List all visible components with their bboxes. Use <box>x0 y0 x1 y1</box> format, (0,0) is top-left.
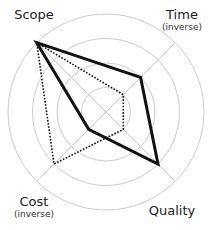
axis-line-quality <box>106 112 175 181</box>
axis-label-quality-text: Quality <box>146 203 198 218</box>
axis-sublabel-time: (inverse) <box>158 22 206 32</box>
axis-sublabel-cost: (inverse) <box>10 209 58 219</box>
axis-label-scope: Scope <box>12 7 56 22</box>
axis-label-quality: Quality <box>146 203 198 218</box>
axis-label-time: Time (inverse) <box>158 7 206 32</box>
series-dotted <box>37 43 124 164</box>
axis-line-cost <box>37 112 106 181</box>
axis-label-time-text: Time <box>158 7 206 22</box>
axis-label-cost-text: Cost <box>10 194 58 209</box>
axis-label-cost: Cost (inverse) <box>10 194 58 219</box>
axis-label-scope-text: Scope <box>12 7 56 22</box>
